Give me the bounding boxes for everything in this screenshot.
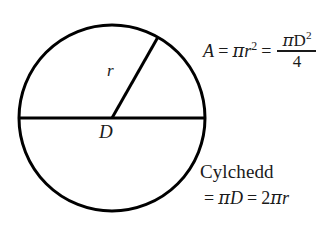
circumference-formula: =πD=2πr	[200, 187, 289, 210]
radius-line	[112, 37, 158, 118]
diameter-variable-2: D	[230, 188, 243, 208]
radius-variable-2: r	[282, 188, 289, 208]
diameter-variable: D	[294, 31, 306, 50]
circle-geometry-figure: r D A = πr2 = πD2 4 Cylchedd =πD=2πr	[0, 0, 334, 229]
fraction-numerator: πD2	[277, 32, 316, 50]
radius-label: r	[107, 62, 114, 79]
area-formula-equals-2: =	[261, 42, 271, 60]
pi-symbol-4: π	[270, 187, 282, 208]
area-formula-pi-r-squared: πr2	[232, 42, 257, 60]
pi-symbol-3: π	[218, 187, 230, 208]
area-formula-lhs: A	[203, 42, 214, 60]
pi-symbol-1: π	[232, 40, 244, 61]
exponent-1: 2	[251, 39, 257, 53]
circumference-block: Cylchedd =πD=2πr	[200, 160, 289, 209]
area-formula: A = πr2 = πD2 4	[203, 32, 316, 70]
pi-symbol-2: π	[282, 30, 293, 50]
area-fraction: πD2 4	[277, 32, 316, 70]
circumference-equals-2: =	[247, 188, 257, 208]
fraction-denominator: 4	[288, 52, 307, 70]
area-formula-equals-1: =	[218, 42, 228, 60]
diameter-label: D	[99, 122, 113, 141]
circumference-equals-1: =	[204, 188, 214, 208]
coefficient-two: 2	[261, 188, 270, 208]
exponent-2: 2	[306, 29, 312, 41]
circumference-label: Cylchedd	[200, 160, 289, 184]
